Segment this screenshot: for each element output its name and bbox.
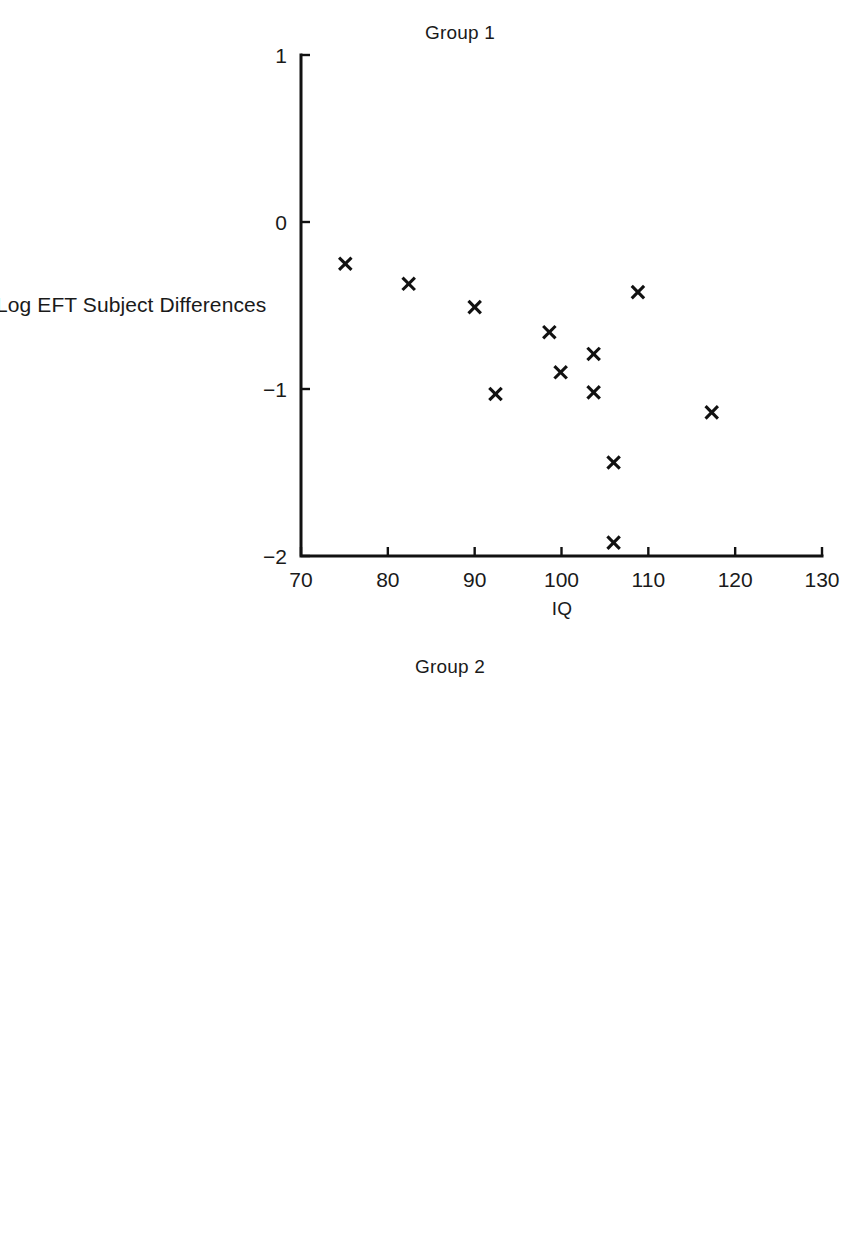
data-point-marker xyxy=(632,286,644,298)
x-tick-label: 80 xyxy=(376,568,399,591)
panel-group-2: Group 2 Log EFT Subject Differences IQ 1… xyxy=(0,613,859,1260)
plot-area-group-1: 10−1−2 708090100110120130 xyxy=(0,0,859,630)
x-tick-label: 90 xyxy=(463,568,486,591)
y-tick-label: 1 xyxy=(275,44,287,67)
data-point-marker xyxy=(543,326,555,338)
data-point-marker xyxy=(339,258,351,270)
x-tick-label: 130 xyxy=(804,568,839,591)
data-point-marker xyxy=(587,348,599,360)
x-tick-label: 100 xyxy=(544,568,579,591)
x-ticks-group-1: 708090100110120130 xyxy=(289,547,839,591)
data-point-marker xyxy=(607,536,619,548)
y-tick-label: −1 xyxy=(263,378,287,401)
y-tick-label: 0 xyxy=(275,211,287,234)
data-point-marker xyxy=(607,456,619,468)
x-tick-label: 70 xyxy=(289,568,312,591)
data-point-marker xyxy=(489,388,501,400)
axes-group-1 xyxy=(301,55,822,556)
data-point-marker xyxy=(554,366,566,378)
y-ticks-group-1: 10−1−2 xyxy=(263,44,310,568)
data-point-marker xyxy=(587,386,599,398)
x-tick-label: 110 xyxy=(632,568,665,591)
plot-area-group-2: 10−1−2 708090100110120130 xyxy=(0,613,859,1260)
data-point-marker xyxy=(468,301,480,313)
figure-scatter-plots: Group 1 Log EFT Subject Differences IQ 1… xyxy=(0,0,859,1260)
axis-spines xyxy=(301,55,822,556)
data-point-marker xyxy=(402,278,414,290)
y-tick-label: −2 xyxy=(263,545,287,568)
x-tick-label: 120 xyxy=(718,568,753,591)
panel-group-1: Group 1 Log EFT Subject Differences IQ 1… xyxy=(0,0,859,630)
data-markers-group-1 xyxy=(339,258,718,549)
data-point-marker xyxy=(706,406,718,418)
